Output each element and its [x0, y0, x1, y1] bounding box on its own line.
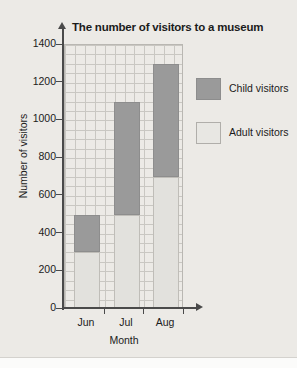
y-axis-tick	[56, 119, 64, 120]
y-axis-tick-label: 800	[2, 150, 56, 162]
y-axis-tick	[56, 81, 64, 82]
bar-segment-adult-jul	[114, 215, 140, 309]
chart-legend: Child visitorsAdult visitors	[196, 74, 296, 162]
y-axis-tick	[56, 194, 64, 195]
bar-segment-child-jun	[74, 215, 100, 253]
y-axis-tick-label: 600	[2, 188, 56, 200]
bar-segment-adult-jun	[74, 252, 100, 309]
legend-swatch-adult-icon	[196, 122, 221, 144]
y-axis-tick-label: 400	[2, 226, 56, 238]
y-axis-tick	[56, 308, 64, 309]
bar-aug	[153, 45, 179, 309]
y-axis-title: Number of visitors	[17, 86, 29, 226]
bar-segment-child-aug	[153, 64, 179, 177]
y-axis-line	[62, 28, 64, 310]
plot-area	[64, 44, 183, 308]
bar-jul	[114, 45, 140, 309]
y-axis-tick-label: 0	[2, 301, 56, 313]
legend-label: Adult visitors	[229, 126, 289, 138]
bar-segment-adult-aug	[153, 177, 179, 309]
bar-segment-child-jul	[114, 102, 140, 215]
y-axis-tick-label: 200	[2, 263, 56, 275]
x-axis-tick	[143, 307, 144, 314]
page-bottom-edge	[0, 357, 297, 368]
y-axis-tick	[56, 232, 64, 233]
x-axis-tick	[104, 307, 105, 314]
legend-item-child[interactable]: Child visitors	[196, 74, 296, 118]
y-axis-tick	[56, 44, 64, 45]
y-axis-tick-label: 1200	[2, 75, 56, 87]
y-axis-tick	[56, 270, 64, 271]
legend-item-adult[interactable]: Adult visitors	[196, 118, 296, 162]
chart-page: The number of visitors to a museum 14001…	[0, 0, 297, 368]
y-axis-tick-label: 1000	[2, 112, 56, 124]
chart-figure: The number of visitors to a museum 14001…	[0, 0, 297, 352]
legend-swatch-child-icon	[196, 78, 221, 100]
x-axis-tick-label: Jun	[66, 316, 106, 328]
legend-label: Child visitors	[229, 82, 289, 94]
x-axis-title: Month	[84, 334, 164, 346]
x-axis-tick-label: Aug	[145, 316, 185, 328]
y-axis-tick-label: 1400	[2, 37, 56, 49]
bar-jun	[74, 45, 100, 309]
chart-title: The number of visitors to a museum	[72, 21, 287, 33]
y-axis-tick	[56, 157, 64, 158]
x-axis-tick-label: Jul	[106, 316, 146, 328]
x-axis-tick	[183, 307, 184, 314]
x-axis-arrow-icon	[196, 303, 203, 311]
x-axis-line	[62, 307, 198, 309]
